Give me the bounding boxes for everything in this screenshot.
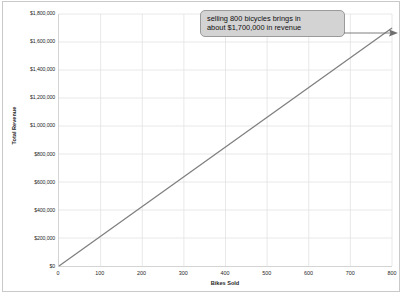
x-axis-tick-label: 200 — [122, 270, 162, 276]
y-axis-tick-label: $200,000 — [5, 236, 55, 241]
y-axis-tick-label: $1,000,000 — [5, 124, 55, 129]
x-axis-tick-label: 300 — [163, 270, 203, 276]
plot-area — [58, 14, 392, 267]
y-axis-tick-labels: $0$200,000$400,000$600,000$800,000$1,000… — [3, 14, 55, 267]
callout-line-2: about $1,700,000 in revenue — [207, 23, 339, 32]
plot-svg — [59, 14, 392, 266]
callout-arrow-icon — [344, 28, 398, 38]
x-axis-tick-label: 0 — [38, 270, 78, 276]
x-axis-tick-label: 800 — [372, 270, 403, 276]
y-axis-tick-label: $1,800,000 — [5, 11, 55, 16]
y-axis-tick-label: $800,000 — [5, 152, 55, 157]
callout-line-1: selling 800 bicycles brings in — [207, 14, 339, 23]
x-axis-tick-label: 100 — [80, 270, 120, 276]
y-axis-tick-label: $0 — [5, 264, 55, 269]
x-axis-tick-label: 600 — [289, 270, 329, 276]
y-axis-tick-label: $600,000 — [5, 180, 55, 185]
y-axis-tick-label: $1,400,000 — [5, 68, 55, 73]
y-axis-tick-label: $400,000 — [5, 208, 55, 213]
y-axis-tick-label: $1,200,000 — [5, 96, 55, 101]
chart-frame: Total Revenue $0$200,000$400,000$600,000… — [2, 1, 400, 292]
footer-note — [3, 296, 183, 306]
x-axis-tick-label: 500 — [247, 270, 287, 276]
x-axis-tick-label: 400 — [205, 270, 245, 276]
x-axis-tick-label: 700 — [330, 270, 370, 276]
y-axis-tick-label: $1,600,000 — [5, 40, 55, 45]
revenue-callout-box: selling 800 bicycles brings in about $1,… — [200, 10, 345, 37]
vertical-gridlines — [101, 14, 392, 266]
x-axis-title: Bikes Sold — [58, 280, 392, 287]
